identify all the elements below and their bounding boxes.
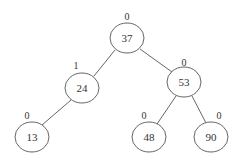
edge-53-90: [192, 96, 206, 123]
node-key: 37: [122, 32, 134, 44]
node-key: 24: [77, 82, 89, 94]
edge-37-24: [94, 50, 115, 76]
node-key: 13: [27, 131, 39, 143]
balance-factor-label: 0: [142, 110, 147, 121]
tree-node-48: 48 0: [132, 110, 166, 153]
edge-53-48: [157, 96, 176, 124]
edge-24-13: [42, 100, 71, 125]
balance-factor-label: 0: [25, 110, 30, 121]
node-key: 53: [179, 76, 191, 88]
balance-factor-label: 1: [74, 60, 79, 71]
tree-diagram: 37 0 24 1 53 0 13 0 48 0 90 0: [0, 0, 241, 160]
tree-node-53: 53 0: [167, 57, 201, 98]
tree-node-90: 90 0: [194, 110, 228, 153]
balance-factor-label: 0: [217, 110, 222, 121]
tree-node-13: 13 0: [15, 110, 49, 153]
edge-37-53: [140, 49, 172, 72]
node-key: 48: [144, 131, 156, 143]
tree-node-37: 37 0: [110, 11, 144, 54]
tree-node-24: 24 1: [65, 60, 99, 104]
node-key: 90: [206, 131, 218, 143]
balance-factor-label: 0: [182, 57, 187, 68]
balance-factor-label: 0: [125, 11, 130, 22]
